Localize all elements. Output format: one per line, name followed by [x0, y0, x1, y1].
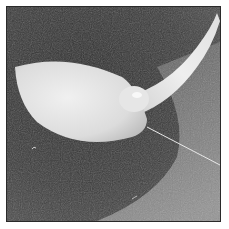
photo-frame [6, 6, 221, 222]
photo [7, 7, 220, 221]
